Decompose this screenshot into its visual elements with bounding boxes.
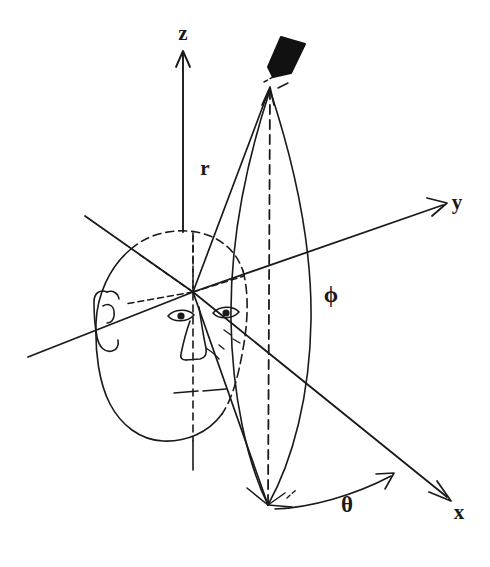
spherical-coordinates-figure: z y x r ϕ θ	[0, 0, 490, 567]
radius-label: r	[200, 156, 209, 180]
canvas-background	[0, 0, 490, 567]
x-axis-label: x	[454, 500, 465, 524]
elevation-angle-label: ϕ	[324, 282, 338, 307]
diagram-root: z y x r ϕ θ	[0, 0, 490, 567]
azimuth-angle-label: θ	[341, 492, 353, 517]
y-axis-label: y	[452, 190, 463, 214]
z-axis-label: z	[178, 21, 187, 45]
